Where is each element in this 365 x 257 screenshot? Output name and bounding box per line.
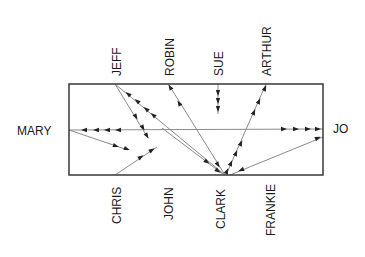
- edge-mary-john-side: [69, 130, 128, 150]
- arrowhead-icon: [216, 98, 220, 104]
- arrowhead-icon: [216, 90, 220, 96]
- arrowhead-icon: [305, 127, 311, 131]
- arrowhead-icon: [281, 127, 287, 131]
- arrowhead-icon: [133, 97, 140, 104]
- node-label-robin: ROBIN: [163, 38, 177, 76]
- arrowhead-icon: [115, 128, 121, 132]
- node-label-sue: SUE: [212, 51, 226, 76]
- node-label-jo: JO: [333, 122, 348, 136]
- node-label-arthur: ARTHUR: [260, 26, 274, 76]
- node-label-chris: CHRIS: [110, 187, 124, 224]
- arrowhead-icon: [144, 132, 151, 139]
- node-label-jeff: JEFF: [110, 47, 124, 76]
- sociogram-diagram: JEFF ROBIN SUE ARTHUR MARY JO CHRIS JOHN…: [0, 0, 365, 257]
- arrowhead-icon: [256, 97, 262, 104]
- node-label-john: JOHN: [162, 187, 176, 220]
- arrowhead-icon: [251, 108, 257, 115]
- arrowhead-icon: [315, 127, 321, 131]
- arrowhead-icon: [237, 167, 244, 173]
- arrowhead-icon: [293, 127, 299, 131]
- node-label-frankie: FRANKIE: [264, 184, 278, 236]
- arrowhead-icon: [104, 128, 110, 132]
- edge-mary-side-clark: [162, 128, 224, 175]
- arrowhead-icon: [216, 106, 220, 112]
- arrowhead-icon: [228, 159, 234, 166]
- arrowhead-icon: [123, 146, 130, 152]
- arrow-layer: [81, 83, 322, 174]
- arrowhead-icon: [112, 143, 119, 149]
- arrowhead-icon: [233, 149, 239, 156]
- node-label-mary: MARY: [17, 124, 51, 138]
- arrowhead-icon: [93, 128, 99, 132]
- node-label-clark: CLARK: [214, 189, 228, 229]
- arrowhead-icon: [81, 128, 87, 132]
